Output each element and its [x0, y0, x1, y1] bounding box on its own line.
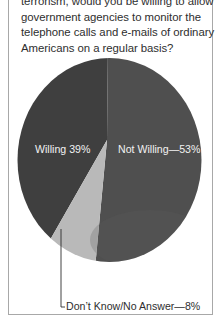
label-not-willing: Not Willing—53% [118, 143, 200, 155]
pie-chart [0, 0, 218, 327]
label-willing: Willing 39% [35, 143, 90, 155]
label-dont-know: Don’t Know/No Answer—8% [66, 300, 200, 312]
